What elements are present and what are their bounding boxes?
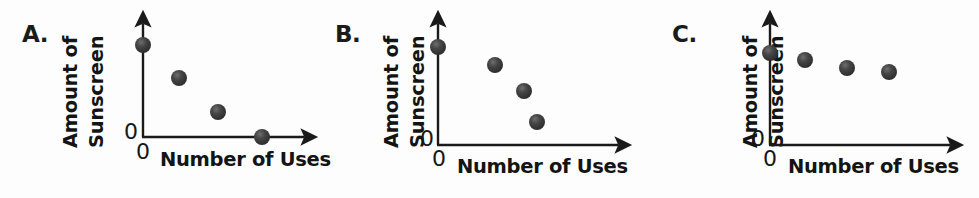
plot-area-a — [0, 0, 327, 198]
data-point — [529, 114, 545, 130]
panel-a: A. Amount of Sunscreen 0 0 Number of Use… — [0, 0, 327, 198]
plot-area-b — [327, 0, 654, 198]
data-point — [135, 37, 151, 53]
data-point — [881, 64, 897, 80]
data-point — [797, 52, 813, 68]
data-point — [210, 104, 226, 120]
data-point — [430, 39, 446, 55]
panel-c: C. Amount of Sunscreen 0 0 Number of Use… — [654, 0, 979, 198]
data-point — [171, 70, 187, 86]
data-point — [762, 45, 778, 61]
plot-area-c — [654, 0, 979, 198]
data-point — [516, 83, 532, 99]
figure-canvas: A. Amount of Sunscreen 0 0 Number of Use… — [0, 0, 979, 198]
data-point — [839, 60, 855, 76]
data-point — [254, 129, 270, 145]
panel-b: B. Amount of Sunscreen 0 0 Number of Use… — [327, 0, 654, 198]
data-point — [487, 57, 503, 73]
